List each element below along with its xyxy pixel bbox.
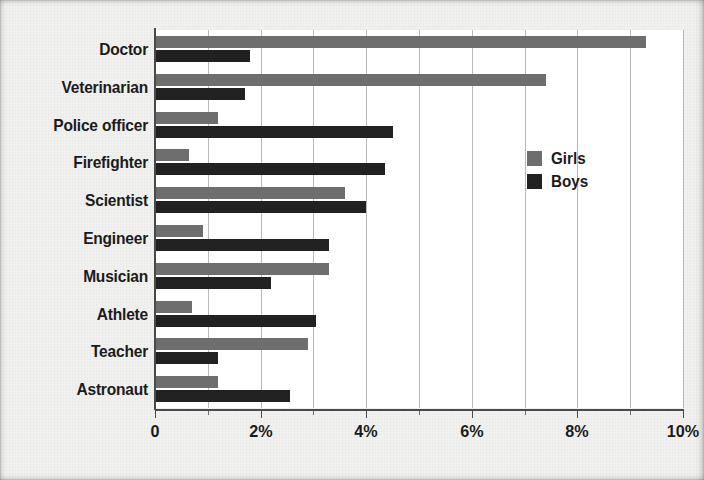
- bar-athlete-girls: [155, 301, 192, 313]
- bar-scientist-boys: [155, 201, 366, 213]
- x-axis-tick: [261, 411, 262, 418]
- grouped-bar-chart: DoctorVeterinarianPolice officerFirefigh…: [0, 0, 704, 480]
- x-axis-tick: [472, 411, 473, 418]
- gridline: [208, 30, 209, 408]
- bar-veterinarian-girls: [155, 74, 546, 86]
- category-label-athlete: Athlete: [16, 305, 148, 323]
- category-label-doctor: Doctor: [16, 40, 148, 58]
- x-axis-minor-tick: [525, 411, 526, 415]
- legend-item-girls[interactable]: Girls: [527, 148, 647, 169]
- bar-veterinarian-boys: [155, 88, 245, 100]
- legend-swatch-icon-girls: [527, 151, 542, 166]
- bar-athlete-boys: [155, 315, 316, 327]
- bar-astronaut-girls: [155, 376, 218, 388]
- bar-engineer-boys: [155, 239, 329, 251]
- chart-legend: GirlsBoys: [527, 148, 647, 194]
- category-label-firefighter: Firefighter: [16, 153, 148, 171]
- bar-teacher-boys: [155, 352, 218, 364]
- category-label-police-officer: Police officer: [16, 116, 148, 134]
- x-axis-tick-label: 0: [151, 422, 160, 442]
- category-label-musician: Musician: [16, 267, 148, 285]
- x-axis-tick-label: 10%: [667, 422, 699, 442]
- x-axis-minor-tick: [208, 411, 209, 415]
- bar-police-officer-girls: [155, 112, 218, 124]
- bar-police-officer-boys: [155, 126, 393, 138]
- x-axis-tick-label: 6%: [460, 422, 483, 442]
- bar-astronaut-boys: [155, 390, 290, 402]
- x-axis-tick-label: 4%: [354, 422, 377, 442]
- y-axis-line: [154, 28, 156, 410]
- gridline: [577, 30, 578, 408]
- gridline: [366, 30, 367, 408]
- gridline: [261, 30, 262, 408]
- scanned-page: DoctorVeterinarianPolice officerFirefigh…: [0, 0, 704, 480]
- category-label-astronaut: Astronaut: [16, 380, 148, 398]
- legend-label: Girls: [551, 150, 586, 168]
- legend-label: Boys: [551, 173, 588, 191]
- legend-item-boys[interactable]: Boys: [527, 171, 647, 192]
- gridline: [683, 30, 684, 408]
- x-axis-tick-label: 8%: [565, 422, 588, 442]
- gridline: [630, 30, 631, 408]
- bar-musician-boys: [155, 277, 271, 289]
- x-axis-minor-tick: [419, 411, 420, 415]
- bar-firefighter-boys: [155, 163, 385, 175]
- x-axis-tick: [366, 411, 367, 418]
- category-axis-labels: DoctorVeterinarianPolice officerFirefigh…: [8, 30, 148, 408]
- gridline: [419, 30, 420, 408]
- gridline: [472, 30, 473, 408]
- x-axis-tick: [683, 411, 684, 418]
- plot-area: [155, 30, 683, 408]
- x-axis-tick: [155, 411, 156, 418]
- gridline: [525, 30, 526, 408]
- category-label-engineer: Engineer: [16, 229, 148, 247]
- bar-engineer-girls: [155, 225, 203, 237]
- x-axis-tick: [577, 411, 578, 418]
- bar-doctor-boys: [155, 50, 250, 62]
- bar-teacher-girls: [155, 338, 308, 350]
- category-label-teacher: Teacher: [16, 342, 148, 360]
- category-label-scientist: Scientist: [16, 191, 148, 209]
- bar-scientist-girls: [155, 187, 345, 199]
- gridline: [313, 30, 314, 408]
- x-axis-tick-label: 2%: [249, 422, 272, 442]
- x-axis-minor-tick: [313, 411, 314, 415]
- category-label-veterinarian: Veterinarian: [16, 78, 148, 96]
- bar-doctor-girls: [155, 36, 646, 48]
- bar-musician-girls: [155, 263, 329, 275]
- bar-firefighter-girls: [155, 149, 189, 161]
- x-axis-minor-tick: [630, 411, 631, 415]
- legend-swatch-icon-boys: [527, 174, 542, 189]
